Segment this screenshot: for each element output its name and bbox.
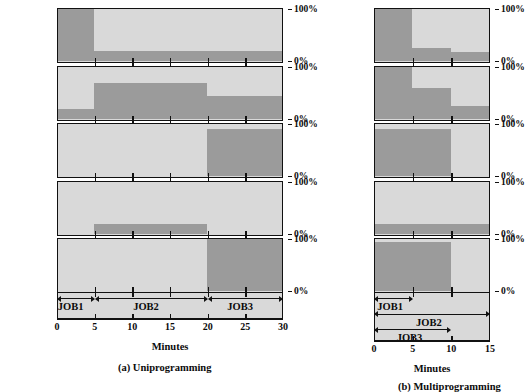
- x-tick-label-0-uniprogramming: 0: [43, 322, 71, 332]
- pct-tick-dash: [288, 124, 292, 125]
- bar-cpu-1: [94, 51, 282, 61]
- x-tick-label-30-uniprogramming: 30: [269, 322, 297, 332]
- job-arrow-line-job1-multiprogramming: [377, 298, 410, 299]
- pct-top-disk-uniprogramming: 100%: [288, 119, 318, 129]
- bar-cpu-2: [451, 52, 490, 61]
- plot-row-memory-uniprogramming: [57, 66, 283, 121]
- job-label-job3-uniprogramming: JOB3: [227, 301, 253, 312]
- x-tick-25-uniprogramming: [245, 314, 246, 320]
- bar-cpu-0: [57, 9, 94, 61]
- job-arrow-line-job2-multiprogramming: [377, 314, 487, 315]
- pct-top-label: 100%: [294, 4, 318, 14]
- job-tick-10-uniprogramming: [132, 287, 133, 297]
- pct-top-label: 100%: [501, 234, 525, 244]
- pct-top-memory-uniprogramming: 100%: [288, 62, 318, 72]
- bar-memory-1: [94, 83, 207, 120]
- pct-tick-dash: [288, 182, 292, 183]
- pct-bottom-printer-uniprogramming: 0%: [288, 286, 308, 296]
- job-tick-20-uniprogramming: [208, 287, 209, 297]
- bar-memory-0: [57, 109, 94, 119]
- x-tick-label-5-uniprogramming: 5: [81, 322, 109, 332]
- x-tick-5-uniprogramming: [95, 314, 96, 320]
- pct-top-printer-uniprogramming: 100%: [288, 234, 318, 244]
- pct-top-printer-multiprogramming: 100%: [495, 234, 525, 244]
- pct-tick-dash: [495, 9, 499, 10]
- job-tick-15-uniprogramming: [170, 287, 171, 297]
- x-tick-label-15-multiprogramming: 15: [476, 344, 504, 354]
- pct-tick-dash: [288, 291, 292, 292]
- bar-memory-1: [412, 88, 451, 119]
- job-tick-5-multiprogramming: [413, 287, 414, 297]
- job-arrow-cap-right-job3-uniprogramming: [279, 296, 283, 302]
- job-tick-25-uniprogramming: [245, 287, 246, 297]
- bar-memory-0: [374, 67, 412, 119]
- job-label-job2-multiprogramming: JOB2: [416, 317, 442, 328]
- x-tick-label-5-multiprogramming: 5: [399, 344, 427, 354]
- x-tick-5-multiprogramming: [413, 336, 414, 342]
- x-tick-label-25-uniprogramming: 25: [231, 322, 259, 332]
- x-tick-15-uniprogramming: [170, 314, 171, 320]
- x-tick-label-20-uniprogramming: 20: [194, 322, 222, 332]
- chart-caption-uniprogramming: (a) Uniprogramming: [118, 362, 211, 373]
- x-tick-label-10-multiprogramming: 10: [437, 344, 465, 354]
- pct-top-label: 100%: [501, 177, 525, 187]
- plot-row-cpu-multiprogramming: [374, 8, 490, 63]
- bar-cpu-1: [412, 48, 451, 61]
- job-arrow-line-job3-uniprogramming: [211, 298, 280, 299]
- job-arrow-cap-right-job3-multiprogramming: [447, 327, 451, 333]
- plot-row-printer-multiprogramming: [374, 238, 490, 293]
- x-tick-label-10-uniprogramming: 10: [118, 322, 146, 332]
- job-arrow-cap-left-job3-multiprogramming: [374, 327, 378, 333]
- plot-row-terminal-multiprogramming: [374, 181, 490, 236]
- bar-printer-1: [207, 239, 282, 291]
- pct-top-label: 100%: [294, 62, 318, 72]
- pct-top-memory-multiprogramming: 100%: [495, 62, 525, 72]
- bar-disk-0: [374, 129, 451, 176]
- pct-bottom-printer-multiprogramming: 0%: [495, 286, 515, 296]
- job-arrow-cap-right-job2-multiprogramming: [486, 311, 490, 317]
- pct-tick-dash: [495, 291, 499, 292]
- pct-tick-dash: [495, 239, 499, 240]
- pct-top-terminal-uniprogramming: 100%: [288, 177, 318, 187]
- chart-caption-multiprogramming: (b) Multiprogramming: [398, 381, 501, 392]
- job-label-job1-uniprogramming: JOB1: [58, 301, 84, 312]
- pct-top-label: 100%: [294, 119, 318, 129]
- pct-bottom-label: 0%: [501, 286, 515, 296]
- pct-tick-dash: [495, 182, 499, 183]
- pct-top-label: 100%: [501, 62, 525, 72]
- job-arrow-line-job1-uniprogramming: [60, 298, 92, 299]
- bar-cpu-0: [374, 9, 412, 61]
- pct-top-label: 100%: [294, 177, 318, 187]
- x-tick-10-multiprogramming: [451, 336, 452, 342]
- pct-tick-dash: [288, 67, 292, 68]
- job-arrow-line-job3-multiprogramming: [377, 329, 448, 330]
- plot-row-cpu-uniprogramming: [57, 8, 283, 63]
- plot-row-disk-multiprogramming: [374, 123, 490, 178]
- x-tick-20-uniprogramming: [208, 314, 209, 320]
- pct-top-label: 100%: [501, 119, 525, 129]
- x-axis-title-uniprogramming: Minutes: [120, 341, 220, 352]
- pct-top-cpu-multiprogramming: 100%: [495, 4, 525, 14]
- x-tick-label-15-uniprogramming: 15: [156, 322, 184, 332]
- plot-row-memory-multiprogramming: [374, 66, 490, 121]
- pct-bottom-label: 0%: [294, 286, 308, 296]
- bar-terminal-0: [374, 224, 490, 234]
- job-tick-5-uniprogramming: [95, 287, 96, 297]
- bar-printer-0: [374, 242, 451, 292]
- pct-tick-dash: [495, 67, 499, 68]
- pct-top-label: 100%: [501, 4, 525, 14]
- x-tick-label-0-multiprogramming: 0: [360, 344, 388, 354]
- pct-top-cpu-uniprogramming: 100%: [288, 4, 318, 14]
- x-axis-title-multiprogramming: Minutes: [382, 363, 482, 374]
- plot-row-terminal-uniprogramming: [57, 181, 283, 236]
- plot-row-disk-uniprogramming: [57, 123, 283, 178]
- job-arrow-line-job2-uniprogramming: [98, 298, 205, 299]
- pct-tick-dash: [288, 239, 292, 240]
- job-label-job1-multiprogramming: JOB1: [377, 301, 403, 312]
- pct-tick-dash: [495, 124, 499, 125]
- job-tick-10-multiprogramming: [451, 287, 452, 297]
- bar-disk-1: [207, 129, 282, 176]
- bar-memory-2: [451, 106, 490, 119]
- pct-top-disk-multiprogramming: 100%: [495, 119, 525, 129]
- pct-top-label: 100%: [294, 234, 318, 244]
